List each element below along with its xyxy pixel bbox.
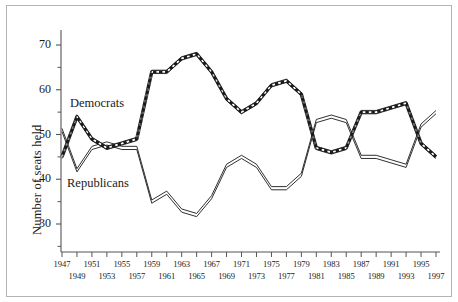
x-tick-label: 1965 <box>182 271 212 281</box>
x-tick-label: 1985 <box>331 271 361 281</box>
x-tick-label: 1993 <box>391 271 421 281</box>
x-tick-label: 1989 <box>361 271 391 281</box>
x-tick-label: 1973 <box>241 271 271 281</box>
x-tick-label: 1967 <box>197 259 227 269</box>
y-tick-label: 40 <box>25 171 51 186</box>
x-tick-label: 1947 <box>47 259 77 269</box>
x-tick-label: 1963 <box>167 259 197 269</box>
x-tick-label: 1951 <box>77 259 107 269</box>
x-tick-label: 1961 <box>152 271 182 281</box>
x-tick-label: 1997 <box>421 271 451 281</box>
x-tick-label: 1969 <box>212 271 242 281</box>
x-tick-label: 1955 <box>107 259 137 269</box>
x-tick-label: 1959 <box>137 259 167 269</box>
x-tick-label: 1953 <box>92 271 122 281</box>
x-tick-label: 1991 <box>376 259 406 269</box>
x-tick-label: 1957 <box>122 271 152 281</box>
x-tick-label: 1971 <box>227 259 257 269</box>
series-label-republicans: Republicans <box>67 176 129 191</box>
x-tick-label: 1949 <box>62 271 92 281</box>
plot-area <box>0 0 458 302</box>
series-republicans <box>62 111 436 217</box>
x-tick-label: 1987 <box>346 259 376 269</box>
x-tick-label: 1983 <box>316 259 346 269</box>
x-tick-label: 1975 <box>256 259 286 269</box>
series-label-democrats: Democrats <box>70 96 124 111</box>
x-tick-label: 1979 <box>286 259 316 269</box>
x-tick-label: 1981 <box>301 271 331 281</box>
y-tick-label: 70 <box>25 37 51 52</box>
y-tick-label: 60 <box>25 82 51 97</box>
chart-figure: Number of seats held Democrats Republica… <box>0 0 458 302</box>
x-tick-label: 1995 <box>406 259 436 269</box>
y-tick-label: 30 <box>25 216 51 231</box>
y-tick-label: 50 <box>25 127 51 142</box>
x-tick-label: 1977 <box>271 271 301 281</box>
